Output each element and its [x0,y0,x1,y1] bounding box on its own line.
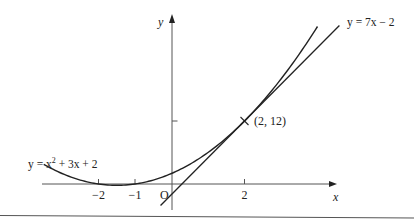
x-ticks: −2−12 [92,179,247,202]
curve-equation-label: y = x2 + 3x + 2 [28,156,98,171]
x-tick-label: 2 [242,188,248,202]
origin-label: O [160,188,169,202]
tangent-point-cross-icon [241,117,249,125]
point-label: (2, 12) [254,114,286,128]
x-axis-arrow-icon [329,181,337,187]
x-axis-label: x [332,190,339,204]
y-axis [169,14,175,210]
curve-label-prefix: y = x [28,158,52,171]
tangent-diagram: −2−12 y x O (2, 12) y = 7x − 2 y = x2 + … [0,0,414,224]
x-tick-label: −1 [129,188,142,202]
tangent-line [161,25,340,205]
y-axis-label: y [157,15,164,29]
tangent-equation-label: y = 7x − 2 [347,16,395,29]
x-tick-label: −2 [92,188,105,202]
curve-label-suffix: + 3x + 2 [56,158,98,170]
bottom-rule [0,216,414,219]
y-axis-arrow-icon [169,14,175,23]
